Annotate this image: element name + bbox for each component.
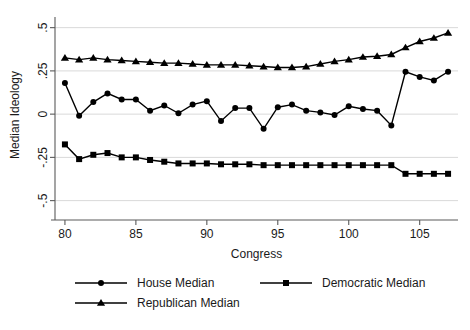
data-point-square <box>346 162 352 168</box>
data-point-square <box>218 161 224 167</box>
data-point-circle <box>105 90 111 96</box>
data-point-square <box>175 160 181 166</box>
data-point-circle <box>175 110 181 116</box>
data-point-circle <box>133 96 139 102</box>
data-point-square <box>289 162 295 168</box>
data-point-square <box>190 160 196 166</box>
data-point-square <box>283 280 289 286</box>
data-point-circle <box>98 280 104 286</box>
data-point-circle <box>388 122 394 128</box>
data-point-square <box>246 161 252 167</box>
data-point-circle <box>445 69 451 75</box>
data-point-circle <box>232 105 238 111</box>
data-point-square <box>204 160 210 166</box>
data-point-circle <box>417 74 423 80</box>
data-point-square <box>76 156 82 162</box>
y-tick-label-4: -.5 <box>36 193 50 207</box>
data-point-circle <box>402 69 408 75</box>
data-point-circle <box>374 108 380 114</box>
data-point-square <box>431 171 437 177</box>
data-point-square <box>161 159 167 165</box>
y-tick-label-0: .5 <box>36 22 50 32</box>
data-point-square <box>374 162 380 168</box>
x-tick-label-1: 85 <box>129 227 143 241</box>
data-point-square <box>275 162 281 168</box>
data-point-square <box>62 141 68 147</box>
data-point-circle <box>303 108 309 114</box>
data-point-circle <box>317 109 323 115</box>
x-tick-label-4: 100 <box>339 227 359 241</box>
data-point-circle <box>190 102 196 108</box>
data-point-square <box>360 162 366 168</box>
legend-label: Democratic Median <box>322 276 425 290</box>
data-point-square <box>261 162 267 168</box>
legend-label: House Median <box>137 276 214 290</box>
data-point-square <box>445 171 451 177</box>
data-point-circle <box>246 105 252 111</box>
data-point-square <box>417 171 423 177</box>
x-tick-label-3: 95 <box>271 227 285 241</box>
legend-label: Republican Median <box>137 296 240 310</box>
data-point-square <box>317 162 323 168</box>
data-point-square <box>90 152 96 158</box>
data-point-square <box>119 154 125 160</box>
data-point-circle <box>360 106 366 112</box>
data-point-square <box>332 162 338 168</box>
y-tick-label-1: .25 <box>36 62 50 79</box>
data-point-square <box>388 162 394 168</box>
data-point-circle <box>218 118 224 124</box>
data-point-circle <box>332 112 338 118</box>
data-point-circle <box>147 108 153 114</box>
data-point-circle <box>204 98 210 104</box>
data-point-circle <box>62 80 68 86</box>
chart-figure: .5.250-.25-.5 80859095100105 Median Ideo… <box>0 0 470 330</box>
x-tick-label-2: 90 <box>200 227 214 241</box>
data-point-circle <box>76 113 82 119</box>
x-tick-label-0: 80 <box>58 227 72 241</box>
data-point-circle <box>275 104 281 110</box>
data-point-square <box>147 157 153 163</box>
y-axis-title: Median Ideology <box>8 71 22 159</box>
data-point-circle <box>261 126 267 132</box>
data-point-square <box>232 161 238 167</box>
data-point-circle <box>346 103 352 109</box>
x-tick-label-5: 105 <box>410 227 430 241</box>
data-point-circle <box>161 102 167 108</box>
data-point-circle <box>90 99 96 105</box>
y-tick-label-2: 0 <box>36 110 50 117</box>
data-point-square <box>105 150 111 156</box>
data-point-circle <box>431 77 437 83</box>
data-point-square <box>303 162 309 168</box>
median-ideology-line-chart: .5.250-.25-.5 80859095100105 Median Ideo… <box>0 0 470 330</box>
data-point-circle <box>289 102 295 108</box>
x-axis-title: Congress <box>231 247 282 261</box>
data-point-circle <box>119 96 125 102</box>
data-point-square <box>402 171 408 177</box>
data-point-square <box>133 154 139 160</box>
y-tick-label-3: -.25 <box>36 147 50 168</box>
